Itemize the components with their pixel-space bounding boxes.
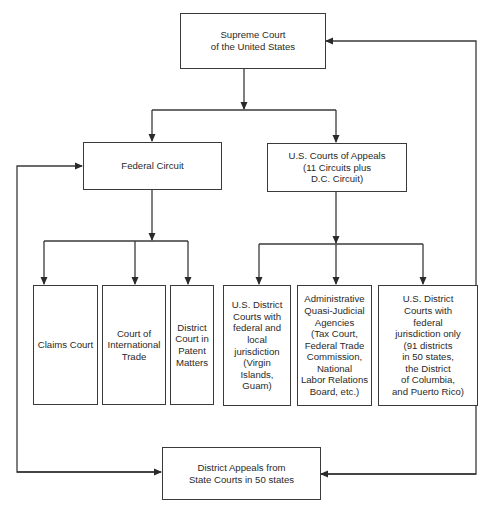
connector-lines [0, 0, 493, 515]
state-appeals-node: District Appeals from State Courts in 50… [162, 447, 321, 500]
administrative-agencies-node: Administrative Quasi-Judicial Agencies (… [297, 285, 372, 406]
claims-court-node: Claims Court [33, 285, 98, 405]
international-trade-node: Court of International Trade [102, 285, 166, 405]
supreme-court-node: Supreme Court of the United States [180, 13, 326, 69]
district-federal-only-node: U.S. District Courts with federal jurisd… [378, 285, 478, 406]
patent-matters-node: District Court in Patent Matters [170, 285, 214, 405]
district-federal-local-node: U.S. District Courts with federal and lo… [223, 285, 291, 406]
arrow-right-loop-to-supreme [321, 41, 476, 474]
federal-circuit-node: Federal Circuit [83, 142, 222, 190]
courts-of-appeals-node: U.S. Courts of Appeals (11 Circuits plus… [267, 143, 407, 192]
